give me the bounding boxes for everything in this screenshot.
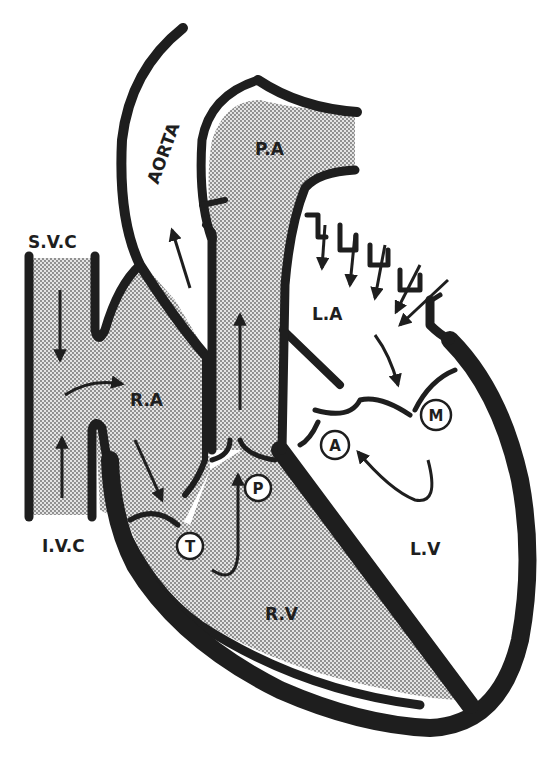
lv-label: L.V bbox=[410, 539, 441, 559]
pa-label: P.A bbox=[255, 139, 285, 159]
mitral-valve-marker: M bbox=[421, 400, 451, 430]
arrow-pv-5 bbox=[400, 280, 448, 325]
mitral-valve-label: M bbox=[429, 407, 444, 425]
pulmonary-valve-marker: P bbox=[245, 475, 271, 501]
rv-label: R.V bbox=[265, 604, 299, 624]
heart-diagram: T P M A S.V.C I.V.C R.A R.V L.A L.V P.A … bbox=[0, 0, 552, 758]
tricuspid-valve-label: T bbox=[185, 538, 196, 556]
aortic-valve-marker: A bbox=[321, 431, 349, 459]
ra-label: R.A bbox=[130, 390, 164, 410]
arrow-lv-loop bbox=[358, 452, 432, 501]
mitral-leaflet bbox=[315, 399, 410, 415]
arrow-la-to-lv bbox=[375, 335, 398, 385]
arrow-pv-2 bbox=[350, 235, 355, 285]
pulmonary-valve-label: P bbox=[253, 480, 264, 498]
atrial-septum-wall bbox=[283, 330, 340, 385]
svc-label: S.V.C bbox=[28, 232, 77, 252]
tricuspid-valve-marker: T bbox=[177, 533, 203, 559]
arrow-aorta-up bbox=[172, 230, 190, 288]
aorta-label: AORTA bbox=[143, 119, 184, 186]
aortic-valve-label: A bbox=[329, 437, 341, 455]
ivc-label: I.V.C bbox=[42, 536, 85, 556]
la-label: L.A bbox=[312, 304, 343, 324]
arrow-pv-3 bbox=[375, 245, 385, 298]
left-atrium-right-wall bbox=[430, 300, 450, 340]
aortic-cusp bbox=[300, 422, 318, 445]
arrow-pv-1 bbox=[322, 225, 325, 268]
